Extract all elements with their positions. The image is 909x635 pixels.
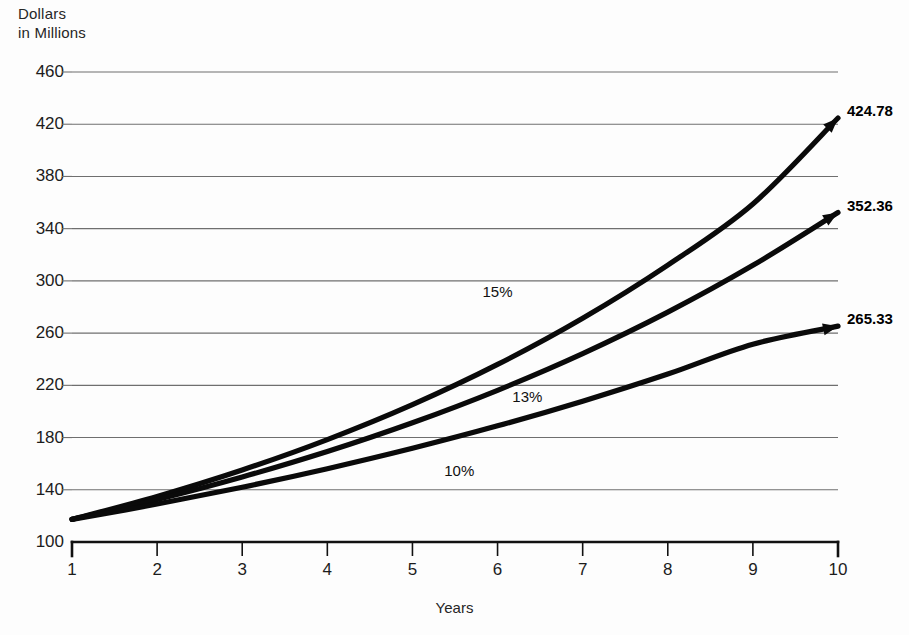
- series-end-label: 265.33: [847, 310, 893, 327]
- plot-area: [0, 0, 909, 635]
- x-tick-label: 1: [67, 560, 76, 580]
- x-tick-label: 8: [663, 560, 672, 580]
- series-annotation: 13%: [512, 387, 542, 404]
- x-tick-label: 5: [408, 560, 417, 580]
- series-end-label: 352.36: [847, 196, 893, 213]
- x-tick-label: 6: [493, 560, 502, 580]
- series-annotation: 15%: [483, 283, 513, 300]
- x-tick-label: 2: [152, 560, 161, 580]
- x-tick-label: 10: [829, 560, 848, 580]
- series-annotation: 10%: [444, 462, 474, 479]
- x-tick-label: 9: [748, 560, 757, 580]
- chart-figure: Dollars in Millions 10014018022026030034…: [0, 0, 909, 635]
- x-tick-label: 4: [323, 560, 332, 580]
- x-tick-label: 7: [578, 560, 587, 580]
- series-end-label: 424.78: [847, 101, 893, 118]
- x-axis-title: Years: [0, 599, 909, 616]
- series-line-15pct: [72, 118, 838, 519]
- x-tick-label: 3: [237, 560, 246, 580]
